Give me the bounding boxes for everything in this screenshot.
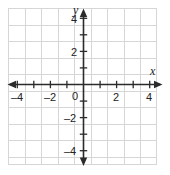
y-axis-top-arrowhead bbox=[80, 9, 87, 18]
y-tick-label-pos2: 2 bbox=[71, 47, 77, 58]
axes-layer bbox=[0, 0, 170, 175]
y-axis-bottom-arrowhead bbox=[80, 158, 87, 167]
x-axis-right-arrowhead bbox=[154, 81, 163, 88]
y-axis-letter-label: y bbox=[73, 4, 78, 16]
x-axis-left-arrowhead bbox=[8, 81, 17, 88]
coordinate-plane-figure: –4 –2 2 4 4 2 –2 –4 0 y x bbox=[0, 0, 170, 175]
origin-label: 0 bbox=[72, 91, 78, 102]
x-tick-label-neg2: –2 bbox=[44, 92, 56, 103]
x-tick-label-neg4: –4 bbox=[11, 92, 23, 103]
x-tick-label-pos4: 4 bbox=[146, 92, 152, 103]
y-tick-label-neg2: –2 bbox=[64, 113, 76, 124]
x-axis-letter-label: x bbox=[150, 65, 155, 77]
x-tick-label-pos2: 2 bbox=[113, 92, 119, 103]
y-tick-label-neg4: –4 bbox=[64, 146, 76, 157]
